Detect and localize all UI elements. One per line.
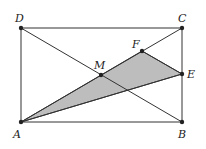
label-E: E [186,68,195,81]
point-B [180,120,184,124]
label-C: C [178,12,187,25]
point-E [180,72,184,76]
point-C [180,26,184,30]
point-D [19,26,23,30]
label-D: D [14,12,24,25]
point-A [19,120,23,124]
point-M [99,73,103,77]
point-F [140,49,144,53]
label-M: M [93,59,106,72]
label-F: F [131,38,140,51]
label-A: A [12,128,21,141]
geometry-diagram: D C A B M F E [0,0,206,149]
label-B: B [177,128,186,141]
